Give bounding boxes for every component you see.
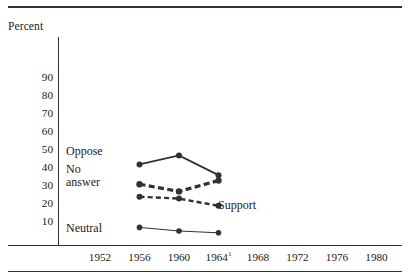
chart-figure: Percent 908070605040302010 1952195619601… [0, 0, 409, 277]
data-point-neutral-1956 [137, 225, 143, 231]
plot-area [0, 0, 409, 277]
data-point-oppose-1956 [137, 161, 143, 167]
data-point-support-1956 [137, 194, 143, 200]
data-point-support-1960 [176, 196, 182, 202]
series-label-no-answer-line2: answer [66, 176, 100, 189]
data-point-neutral-1964 [216, 230, 222, 236]
axis-bottom-rule [8, 245, 402, 246]
data-point-oppose-1964 [216, 172, 222, 178]
data-point-no-answer-1956 [136, 181, 142, 187]
data-point-no-answer-1964 [215, 177, 221, 183]
footer-rule [8, 271, 402, 272]
series-label-no-answer: No answer [66, 163, 100, 189]
series-label-oppose: Oppose [66, 145, 103, 158]
data-point-oppose-1960 [176, 152, 182, 158]
data-point-neutral-1960 [176, 228, 182, 234]
series-label-neutral: Neutral [66, 222, 102, 235]
series-label-support: Support [218, 199, 256, 212]
data-point-no-answer-1960 [176, 188, 182, 194]
